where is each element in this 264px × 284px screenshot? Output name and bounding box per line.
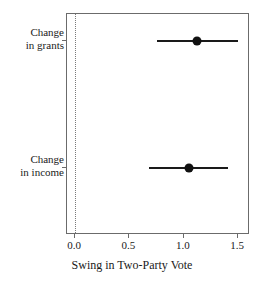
estimate-point-grants bbox=[192, 37, 201, 46]
x-tick-2 bbox=[183, 234, 184, 238]
y-axis-label-grants-line1: Change bbox=[26, 26, 64, 39]
zero-reference-line bbox=[75, 14, 76, 233]
x-tick-1 bbox=[128, 234, 129, 238]
plot-area bbox=[67, 14, 248, 233]
x-tick-label-3: 1.5 bbox=[230, 239, 244, 251]
y-axis-label-income: Change in income bbox=[20, 153, 64, 179]
x-tick-label-1: 0.5 bbox=[122, 239, 136, 251]
x-axis-title: Swing in Two-Party Vote bbox=[0, 258, 264, 273]
y-axis-label-grants-line2: in grants bbox=[26, 39, 64, 52]
x-tick-label-0: 0.0 bbox=[67, 239, 81, 251]
x-tick-label-2: 1.0 bbox=[176, 239, 190, 251]
estimate-point-income bbox=[185, 164, 194, 173]
plot-panel bbox=[66, 13, 249, 234]
x-tick-3 bbox=[237, 234, 238, 238]
x-tick-0 bbox=[74, 234, 75, 238]
y-axis-label-grants: Change in grants bbox=[26, 26, 64, 52]
coefficient-plot-figure: Change in grants Change in income 0.00.5… bbox=[0, 0, 264, 284]
y-axis-label-income-line2: in income bbox=[20, 166, 64, 179]
y-axis-label-income-line1: Change bbox=[20, 153, 64, 166]
